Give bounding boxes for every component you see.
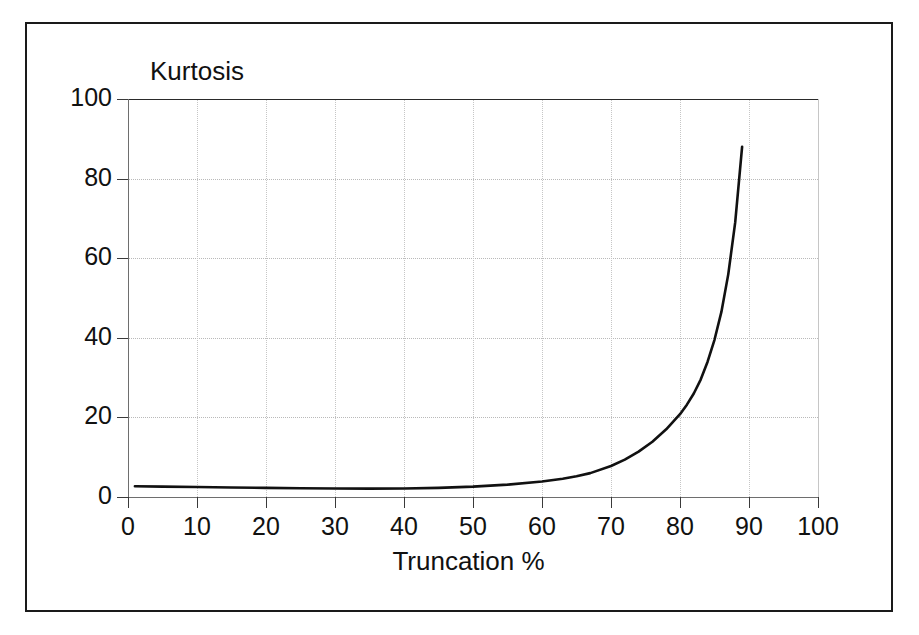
x-axis-title: Truncation % (0, 546, 919, 577)
xtick-label-50: 50 (443, 512, 503, 541)
xtick-mark-10 (197, 497, 198, 508)
xtick-mark-90 (749, 497, 750, 508)
ytick-mark-80 (117, 179, 128, 180)
ytick-label-40: 40 (84, 322, 112, 351)
ytick-label-100: 100 (70, 83, 112, 112)
ytick-mark-60 (117, 258, 128, 259)
xtick-label-0: 0 (98, 512, 158, 541)
xtick-mark-0 (128, 497, 129, 508)
figure-container: 100 80 60 40 20 0 0 10 20 30 40 50 60 70… (0, 0, 919, 635)
xtick-label-90: 90 (719, 512, 779, 541)
ytick-label-80: 80 (84, 163, 112, 192)
xtick-label-70: 70 (581, 512, 641, 541)
xtick-mark-60 (542, 497, 543, 508)
xtick-mark-50 (473, 497, 474, 508)
xtick-mark-30 (335, 497, 336, 508)
y-axis-labels: 100 80 60 40 20 0 (0, 99, 112, 497)
kurtosis-curve-svg (128, 99, 818, 497)
ytick-mark-20 (117, 417, 128, 418)
axis-right-line (818, 99, 819, 498)
xtick-label-10: 10 (167, 512, 227, 541)
ytick-label-0: 0 (98, 481, 112, 510)
xtick-mark-70 (611, 497, 612, 508)
kurtosis-curve (135, 147, 742, 489)
xtick-label-20: 20 (236, 512, 296, 541)
ytick-mark-0 (117, 497, 128, 498)
xtick-label-60: 60 (512, 512, 572, 541)
xtick-label-30: 30 (305, 512, 365, 541)
xtick-label-40: 40 (374, 512, 434, 541)
y-axis-title: Kurtosis (150, 56, 244, 87)
ytick-label-20: 20 (84, 401, 112, 430)
ytick-mark-100 (117, 99, 128, 100)
xtick-mark-40 (404, 497, 405, 508)
xtick-mark-80 (680, 497, 681, 508)
xtick-label-80: 80 (650, 512, 710, 541)
xtick-mark-100 (818, 497, 819, 508)
xtick-mark-20 (266, 497, 267, 508)
ytick-label-60: 60 (84, 242, 112, 271)
xtick-label-100: 100 (788, 512, 848, 541)
x-axis-title-text: Truncation % (392, 546, 544, 576)
ytick-mark-40 (117, 338, 128, 339)
